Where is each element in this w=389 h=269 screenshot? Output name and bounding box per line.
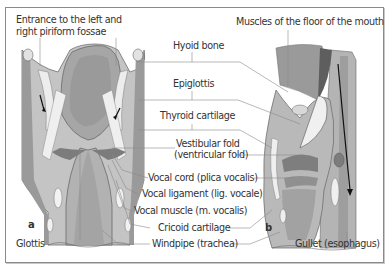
label-piriform-fossae: Entrance to the left and — [16, 14, 122, 25]
label-ventricular-fold: (ventricular fold) — [174, 149, 248, 160]
label-epiglottis: Epiglottis — [173, 78, 214, 89]
label-windpipe: Windpipe (trachea) — [152, 238, 238, 249]
label-hyoid-bone: Hyoid bone — [173, 40, 224, 51]
label-vocal-ligament: Vocal ligament (lig. vocale) — [142, 188, 262, 199]
label-gullet: Gullet (esophagus) — [295, 238, 380, 249]
label-vocal-cord: Vocal cord (plica vocalis) — [148, 172, 258, 183]
label-piriform-fossae-line2: right piriform fossae — [16, 26, 106, 37]
panel-b-illustration — [264, 44, 356, 250]
label-glottis: Glottis — [16, 238, 45, 249]
label-floor-of-mouth-muscles: Muscles of the floor of the mouth — [236, 16, 384, 27]
panel-a-illustration — [22, 44, 145, 247]
label-vocal-muscle: Vocal muscle (m. vocalis) — [134, 205, 247, 216]
label-thyroid-cartilage: Thyroid cartilage — [160, 110, 235, 121]
label-cricoid-cartilage: Cricoid cartilage — [158, 222, 230, 233]
panel-label-a: a — [28, 219, 35, 230]
label-vestibular-fold: Vestibular fold — [176, 138, 240, 149]
panel-label-b: b — [265, 222, 272, 233]
